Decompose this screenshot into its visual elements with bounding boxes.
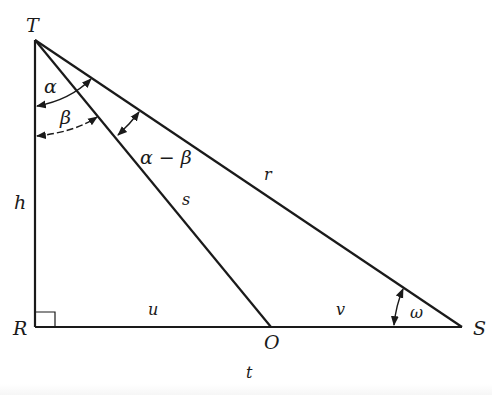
segment-r: [35, 40, 462, 327]
point-label-O: O: [264, 333, 280, 352]
point-label-S: S: [473, 319, 486, 338]
angle-label-alpha: α: [44, 77, 57, 96]
triangle-diagram: [0, 0, 492, 395]
omega-arc: [394, 289, 403, 325]
segment-label-h: h: [14, 193, 26, 212]
segment-label-u: u: [148, 302, 158, 318]
point-label-R: R: [13, 319, 27, 338]
segment-label-s: s: [182, 192, 190, 208]
cropped-caption-remnant: [0, 384, 492, 395]
segment-label-r: r: [264, 167, 272, 183]
segment-label-v: v: [336, 302, 345, 318]
angle-label-omega: ω: [410, 305, 423, 321]
right-angle-marker: [35, 312, 55, 327]
angle-label-alpha-minus-beta: α − β: [140, 148, 192, 167]
alpha-minus-beta-arc: [118, 112, 139, 135]
segment-s: [35, 40, 271, 327]
angle-label-beta: β: [60, 108, 71, 127]
point-label-T: T: [26, 16, 39, 35]
segment-label-t: t: [246, 365, 252, 381]
